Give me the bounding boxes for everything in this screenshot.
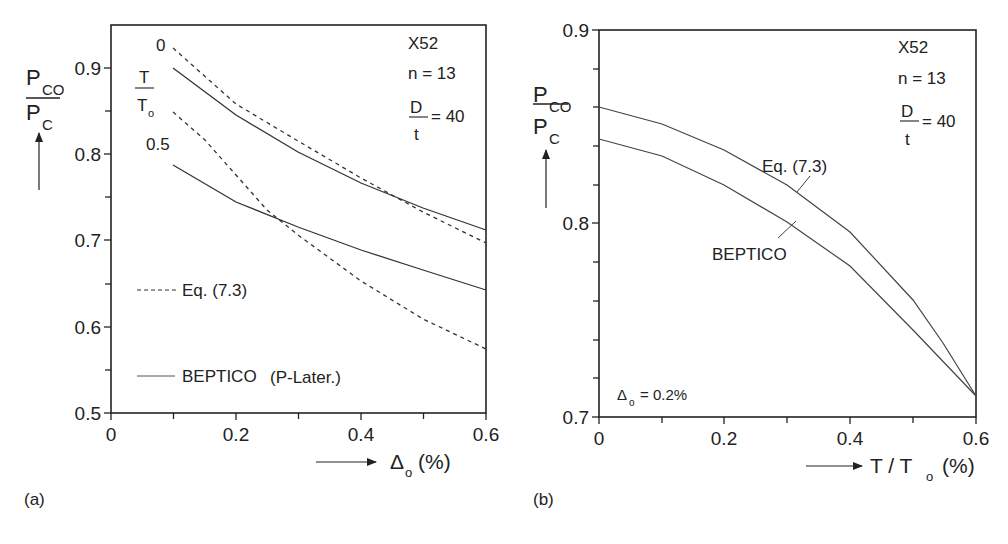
svg-text:= 40: = 40: [431, 107, 465, 126]
svg-text:X52: X52: [898, 38, 928, 57]
svg-text:n = 13: n = 13: [408, 64, 456, 83]
x-tick-label: 0.6: [963, 428, 989, 449]
y-tick-label: 0.7: [75, 230, 101, 251]
x-tick-label: 0: [106, 424, 117, 445]
y-axis-ticks-a: [104, 68, 111, 413]
y-tick-label: 0.8: [75, 144, 101, 165]
svg-text:P: P: [533, 114, 548, 139]
svg-text:C: C: [549, 130, 560, 147]
svg-text:(%): (%): [942, 454, 975, 477]
beptico-curve-t0: [173, 68, 486, 230]
legend-a: Eq. (7.3) BEPTICO (P-Later.): [137, 281, 341, 387]
svg-text:t: t: [905, 130, 910, 149]
svg-text:P: P: [26, 65, 41, 90]
svg-text:P: P: [26, 100, 41, 125]
beptico-curve: [599, 139, 976, 396]
svg-text:(%): (%): [418, 450, 451, 473]
svg-text:C: C: [42, 116, 53, 133]
curve-labels-b: Eq. (7.3) BEPTICO: [712, 157, 827, 264]
svg-text:X52: X52: [408, 34, 438, 53]
svg-text:0.5: 0.5: [146, 135, 170, 154]
panel-label-a: (a): [24, 490, 45, 509]
svg-text:T: T: [139, 68, 149, 87]
x-tick-label: 0: [594, 428, 605, 449]
x-tick-label: 0.6: [473, 424, 499, 445]
x-tick-label: 0.2: [223, 424, 249, 445]
svg-text:D: D: [901, 102, 913, 121]
svg-text:= 0.2%: = 0.2%: [640, 386, 687, 403]
svg-text:o: o: [629, 397, 635, 408]
curves-a: [173, 48, 486, 349]
parameter-annotations-a: X52 n = 13 D t = 40: [408, 34, 465, 144]
plot-frame-a: [111, 25, 486, 413]
svg-text:n = 13: n = 13: [898, 69, 946, 88]
delta-annotation-b: Δ o = 0.2%: [617, 386, 687, 408]
legend-eq-label: Eq. (7.3): [182, 281, 247, 300]
eq73-curve-t05: [173, 112, 486, 349]
y-tick-label: 0.7: [563, 407, 589, 428]
svg-text:(P-Later.): (P-Later.): [270, 368, 341, 387]
svg-text:T / T: T / T: [870, 454, 913, 477]
chart-panel-a: 0.9 0.8 0.7 0.6 0.5 0 0.2 0.4 0.6 P CO P…: [24, 25, 499, 509]
y-tick-label: 0.9: [563, 20, 589, 41]
x-axis-ticks-b: [599, 417, 976, 424]
svg-text:CO: CO: [42, 81, 65, 98]
svg-text:t: t: [414, 125, 419, 144]
y-axis-label-a: P CO P C: [26, 65, 65, 190]
svg-text:0: 0: [156, 36, 165, 55]
svg-text:o: o: [405, 465, 412, 480]
panel-label-b: (b): [533, 490, 554, 509]
y-tick-label: 0.6: [75, 317, 101, 338]
y-axis-ticks-b: [592, 30, 599, 417]
y-tick-label: 0.5: [75, 403, 101, 424]
y-tick-label: 0.9: [75, 58, 101, 79]
svg-text:Δ: Δ: [390, 450, 404, 473]
svg-text:CO: CO: [549, 98, 572, 115]
x-tick-label: 0.2: [711, 428, 737, 449]
plot-frame-b: [599, 30, 976, 417]
x-axis-ticks-a: [111, 413, 486, 420]
curve-parameter-labels-a: 0 T T o 0.5: [135, 36, 170, 154]
svg-text:BEPTICO: BEPTICO: [712, 245, 787, 264]
svg-text:= 40: = 40: [922, 112, 956, 131]
svg-text:o: o: [148, 107, 154, 119]
svg-text:P: P: [533, 82, 548, 107]
legend-beptico-label: BEPTICO: [182, 367, 257, 386]
svg-text:o: o: [926, 469, 933, 484]
x-tick-label: 0.4: [837, 428, 864, 449]
svg-text:D: D: [410, 98, 422, 117]
parameter-annotations-b: X52 n = 13 D t = 40: [898, 38, 956, 149]
eq73-curve: [599, 107, 976, 396]
chart-panel-b: 0.9 0.8 0.7 0 0.2 0.4 0.6 P CO P C T / T…: [533, 20, 989, 509]
svg-text:T: T: [137, 96, 147, 115]
curves-b: [599, 107, 976, 396]
x-axis-label-a: Δ o (%): [316, 450, 451, 480]
x-tick-label: 0.4: [348, 424, 375, 445]
y-axis-label-b: P CO P C: [533, 82, 572, 208]
y-tick-label: 0.8: [563, 213, 589, 234]
beptico-curve-t05: [173, 165, 486, 290]
figure: 0.9 0.8 0.7 0.6 0.5 0 0.2 0.4 0.6 P CO P…: [0, 0, 1008, 544]
svg-text:Eq. (7.3): Eq. (7.3): [762, 157, 827, 176]
x-axis-label-b: T / T o (%): [806, 454, 975, 484]
svg-text:Δ: Δ: [617, 386, 627, 403]
